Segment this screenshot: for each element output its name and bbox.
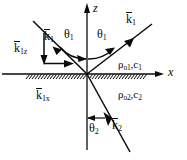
k1-reflected-symbol: k — [126, 13, 132, 25]
theta1-reflected-label: θ1 — [97, 28, 107, 42]
k1x-subscript: 1x — [42, 94, 50, 103]
x-axis-label: x — [168, 66, 173, 78]
theta1-incident-subscript: 1 — [70, 33, 74, 42]
k1-incident-symbol: k — [44, 30, 50, 42]
k1-incident-subscript: 1 — [50, 35, 54, 44]
wave-refraction-diagram: z x k1 θ1 θ1 k1 k1z k1x ρo1,c1 ρo2,c2 θ2… — [0, 0, 187, 160]
medium1-c-subscript: 1 — [138, 63, 142, 72]
medium2-rho-subscript: o2 — [124, 93, 131, 102]
k1z-symbol: k — [14, 42, 20, 54]
k1z-label: k1z — [14, 39, 27, 56]
k1x-component-vector — [44, 60, 74, 68]
interface-hatching — [26, 75, 147, 80]
reflected-ray-arrowhead — [124, 38, 134, 48]
k1x-symbol: k — [36, 89, 42, 101]
k1-incident-label: k1 — [44, 27, 54, 44]
theta1-incident-arc-arrowhead — [77, 55, 87, 62]
theta1-incident-label: θ1 — [64, 28, 74, 42]
medium1-properties-label: ρo1,c1 — [118, 55, 142, 72]
theta1-reflected-arc — [88, 48, 115, 60]
k1x-arrowhead — [64, 60, 74, 68]
k1-reflected-subscript: 1 — [132, 18, 136, 27]
z-axis-label: z — [93, 2, 98, 14]
medium2-properties-label: ρo2,c2 — [118, 85, 142, 102]
medium2-c-subscript: 2 — [138, 93, 142, 102]
z-axis-arrowhead — [84, 3, 90, 13]
refracted-ray-arrowhead — [104, 112, 113, 126]
theta2-subscript: 2 — [95, 127, 99, 136]
medium1-rho-subscript: o1 — [124, 63, 131, 72]
k2-symbol: k — [112, 119, 118, 131]
x-axis-arrowhead — [155, 71, 164, 77]
k2-subscript: 2 — [118, 124, 122, 133]
k1z-subscript: 1z — [20, 47, 27, 56]
theta1-reflected-subscript: 1 — [103, 33, 107, 42]
k1x-label: k1x — [36, 86, 50, 103]
k1-reflected-label: k1 — [126, 10, 136, 27]
theta2-label: θ2 — [89, 122, 99, 136]
k2-label: k2 — [112, 116, 122, 133]
